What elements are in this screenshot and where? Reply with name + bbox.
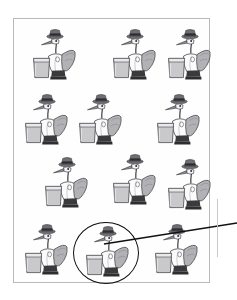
stork-icon — [80, 95, 122, 145]
margin-rule — [217, 199, 218, 257]
stork-icon — [156, 225, 198, 275]
stork-icon — [34, 30, 76, 80]
margin-note — [221, 210, 237, 246]
stork-figure — [166, 28, 218, 84]
stork-figure — [111, 153, 163, 209]
stork-figure — [155, 93, 207, 149]
stork-figure — [153, 223, 205, 279]
stork-icon — [46, 158, 88, 208]
stork-icon — [26, 95, 68, 145]
stork-icon — [169, 160, 211, 210]
stork-figure — [23, 93, 75, 149]
stork-figure — [111, 28, 163, 84]
stork-icon — [87, 227, 129, 277]
stork-figure-highlighted — [84, 225, 136, 281]
stork-figure — [31, 28, 83, 84]
stork-icon — [26, 225, 68, 275]
stork-icon — [158, 95, 200, 145]
figure-frame — [13, 18, 210, 283]
stork-figure — [166, 158, 218, 214]
stork-icon — [114, 30, 156, 80]
stork-figure — [43, 156, 95, 212]
stork-figure — [77, 93, 129, 149]
stork-figure — [23, 223, 75, 279]
stork-icon — [169, 30, 211, 80]
stork-icon — [114, 155, 156, 205]
